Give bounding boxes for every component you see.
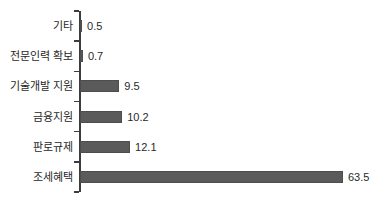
category-label: 전문인력 확보 xyxy=(0,48,73,64)
value-label: 63.5 xyxy=(348,169,369,185)
bar xyxy=(80,141,130,153)
axis-tick xyxy=(74,131,79,133)
bar xyxy=(80,111,122,123)
axis-tick xyxy=(74,101,79,103)
bar xyxy=(80,50,83,62)
axis-tick xyxy=(74,71,79,73)
axis-tick xyxy=(74,161,79,163)
category-label: 기술개발 지원 xyxy=(0,78,73,94)
category-label: 금융지원 xyxy=(0,109,73,125)
value-label: 10.2 xyxy=(127,109,148,125)
bar xyxy=(80,20,82,32)
horizontal-bar-chart: 기타0.5전문인력 확보0.7기술개발 지원9.5금융지원10.2판로규제12.… xyxy=(0,0,386,205)
category-axis-line xyxy=(79,11,81,192)
axis-tick xyxy=(74,40,79,42)
category-label: 판로규제 xyxy=(0,139,73,155)
axis-tick xyxy=(74,10,79,12)
bar xyxy=(80,80,119,92)
axis-tick xyxy=(74,191,79,193)
bar xyxy=(80,171,343,183)
value-label: 0.5 xyxy=(87,18,102,34)
category-label: 조세혜택 xyxy=(0,169,73,185)
value-label: 0.7 xyxy=(88,48,103,64)
value-label: 12.1 xyxy=(135,139,156,155)
value-label: 9.5 xyxy=(124,78,139,94)
category-label: 기타 xyxy=(0,18,73,34)
